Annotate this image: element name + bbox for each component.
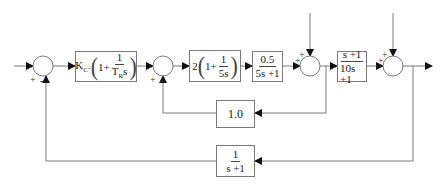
process-2-block: s +1 10s +1 [337,51,367,82]
summing-junction-1 [33,56,53,76]
sum1-plus-sign: + [30,75,36,85]
outer-controller-block: KC. ( 1 + 1 TRs ) [75,51,137,82]
sum4-plus-left-sign: + [378,56,384,66]
outer-feedback-fraction: 1 s +1 [224,149,247,174]
sum1-minus-sign: - [40,76,43,86]
process-1-block: 0.5 5s +1 [252,51,283,82]
den-s: s [123,65,127,77]
gain-sub-c: C [83,66,88,74]
fraction-numerator: s +1 [341,49,364,62]
sum3-plus-left-sign: + [295,56,301,66]
outer-feedback-block: 1 s +1 [216,145,255,177]
summing-junction-2 [153,56,173,76]
feedback-gain: 1.0 [228,107,243,122]
fraction-numerator: 1 [231,149,241,162]
sum2-minus-sign: - [160,76,163,86]
inner-feedback-block: 1.0 [216,100,255,128]
integral-fraction: 1 5s [217,54,231,79]
fraction-denominator: TRs [110,65,130,80]
integral-fraction: 1 TRs [110,52,130,80]
process-1-fraction: 0.5 5s +1 [253,54,281,79]
sum2-plus-sign: + [150,75,156,85]
left-paren: ( [91,54,98,78]
process-2-fraction: s +1 10s +1 [338,49,366,85]
right-paren: ) [129,54,136,78]
fraction-denominator: 5s +1 [253,67,281,79]
gain-label: KC. [75,59,90,74]
fraction-numerator: 1 [115,52,125,65]
fraction-numerator: 1 [219,54,229,67]
left-paren: ( [198,54,205,78]
fraction-denominator: s +1 [224,162,247,174]
fraction-denominator: 5s [217,67,231,79]
block-diagram: + - + - + + + + KC. ( 1 + 1 TRs ) 2 ( 1 … [0,0,443,184]
fraction-denominator: 10s +1 [338,62,366,85]
right-paren: ) [231,54,238,78]
inner-controller-block: 2 ( 1 + 1 5s ) [189,50,241,82]
fraction-numerator: 0.5 [259,54,277,67]
